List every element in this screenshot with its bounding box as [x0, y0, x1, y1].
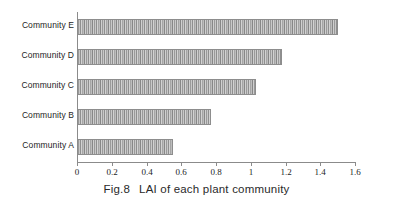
x-tick-label: 0.2 [97, 167, 127, 177]
caption-text: LAI of each plant community [139, 183, 290, 195]
bar-row: Community B [0, 102, 393, 132]
x-tick-label: 1 [236, 167, 266, 177]
x-tick-mark [320, 162, 321, 166]
bar [78, 49, 282, 65]
x-tick-mark [286, 162, 287, 166]
x-tick-mark [216, 162, 217, 166]
bar [78, 79, 256, 95]
bar [78, 139, 173, 155]
x-tick-mark [77, 162, 78, 166]
x-tick-mark [251, 162, 252, 166]
category-label: Community A [0, 140, 74, 151]
category-label: Community C [0, 80, 74, 91]
figure-caption: Fig.8LAI of each plant community [0, 183, 393, 195]
bar [78, 19, 338, 35]
x-tick-label: 0 [62, 167, 92, 177]
chart-figure: Community ECommunity DCommunity CCommuni… [0, 0, 393, 211]
category-label: Community D [0, 50, 74, 61]
category-label: Community B [0, 110, 74, 121]
x-tick-label: 1.4 [305, 167, 335, 177]
x-tick-label: 1.2 [271, 167, 301, 177]
category-label: Community E [0, 20, 74, 31]
x-tick-label: 0.8 [201, 167, 231, 177]
plot-area: Community ECommunity DCommunity CCommuni… [0, 0, 393, 211]
x-tick-label: 1.6 [340, 167, 370, 177]
x-tick-label: 0.6 [166, 167, 196, 177]
x-tick-mark [355, 162, 356, 166]
bar-row: Community A [0, 132, 393, 162]
bar-row: Community D [0, 42, 393, 72]
bar-row: Community C [0, 72, 393, 102]
caption-figure-number: Fig.8 [103, 183, 130, 195]
x-tick-mark [147, 162, 148, 166]
bar-row: Community E [0, 12, 393, 42]
x-tick-mark [181, 162, 182, 166]
x-tick-label: 0.4 [132, 167, 162, 177]
x-tick-mark [112, 162, 113, 166]
bar [78, 109, 211, 125]
